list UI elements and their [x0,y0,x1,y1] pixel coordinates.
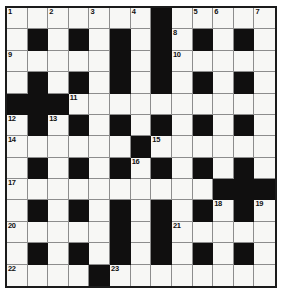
grid-cell-light[interactable] [69,51,90,72]
grid-cell-light[interactable] [7,200,28,221]
grid-cell-light[interactable] [28,51,49,72]
grid-cell-light[interactable] [193,179,214,200]
grid-cell-light[interactable] [89,179,110,200]
grid-cell-light[interactable]: 18 [213,200,234,221]
grid-cell-light[interactable]: 9 [7,51,28,72]
grid-cell-light[interactable]: 5 [193,8,214,29]
grid-cell-light[interactable] [234,51,255,72]
grid-cell-light[interactable]: 19 [254,200,275,221]
grid-cell-light[interactable]: 12 [7,115,28,136]
grid-cell-light[interactable] [234,8,255,29]
grid-cell-light[interactable] [131,200,152,221]
grid-cell-light[interactable]: 23 [110,265,131,286]
grid-cell-light[interactable]: 22 [7,265,28,286]
grid-cell-light[interactable] [193,94,214,115]
grid-cell-light[interactable] [254,115,275,136]
grid-cell-light[interactable] [69,179,90,200]
grid-cell-light[interactable] [89,51,110,72]
grid-cell-light[interactable] [89,29,110,50]
grid-cell-light[interactable]: 21 [172,222,193,243]
grid-cell-light[interactable] [89,158,110,179]
grid-cell-light[interactable] [213,136,234,157]
grid-cell-light[interactable] [48,158,69,179]
grid-cell-light[interactable] [48,72,69,93]
grid-cell-light[interactable] [213,29,234,50]
grid-cell-light[interactable] [28,136,49,157]
grid-cell-light[interactable] [28,265,49,286]
grid-cell-light[interactable]: 16 [131,158,152,179]
grid-cell-light[interactable] [172,179,193,200]
grid-cell-light[interactable] [69,222,90,243]
grid-cell-light[interactable] [172,243,193,264]
grid-cell-light[interactable] [254,158,275,179]
grid-cell-light[interactable] [234,265,255,286]
grid-cell-light[interactable] [7,72,28,93]
grid-cell-light[interactable] [254,136,275,157]
grid-cell-light[interactable] [131,265,152,286]
grid-cell-light[interactable]: 17 [7,179,28,200]
grid-cell-light[interactable] [48,136,69,157]
grid-cell-light[interactable] [110,136,131,157]
grid-cell-light[interactable]: 3 [89,8,110,29]
grid-cell-light[interactable] [151,94,172,115]
grid-cell-light[interactable] [172,136,193,157]
grid-cell-light[interactable] [7,29,28,50]
grid-cell-light[interactable] [89,243,110,264]
grid-cell-light[interactable] [254,222,275,243]
grid-cell-light[interactable] [48,179,69,200]
grid-cell-light[interactable]: 4 [131,8,152,29]
grid-cell-light[interactable] [234,136,255,157]
crossword-grid[interactable]: 1234567891011121314151617181920212223 [5,6,277,288]
grid-cell-light[interactable] [48,243,69,264]
grid-cell-light[interactable] [213,51,234,72]
grid-cell-light[interactable]: 11 [69,94,90,115]
grid-cell-light[interactable] [213,115,234,136]
grid-cell-light[interactable] [172,115,193,136]
grid-cell-light[interactable] [89,72,110,93]
grid-cell-light[interactable] [213,94,234,115]
grid-cell-light[interactable] [213,222,234,243]
grid-cell-light[interactable] [89,94,110,115]
grid-cell-light[interactable] [69,8,90,29]
grid-cell-light[interactable]: 20 [7,222,28,243]
grid-cell-light[interactable] [69,136,90,157]
grid-cell-light[interactable]: 2 [48,8,69,29]
grid-cell-light[interactable] [193,51,214,72]
grid-cell-light[interactable] [48,200,69,221]
grid-cell-light[interactable] [48,222,69,243]
grid-cell-light[interactable] [172,72,193,93]
grid-cell-light[interactable] [28,179,49,200]
grid-cell-light[interactable] [131,94,152,115]
grid-cell-light[interactable]: 13 [48,115,69,136]
grid-cell-light[interactable] [193,222,214,243]
grid-cell-light[interactable] [89,136,110,157]
grid-cell-light[interactable] [48,29,69,50]
grid-cell-light[interactable] [151,179,172,200]
grid-cell-light[interactable] [193,136,214,157]
grid-cell-light[interactable] [254,72,275,93]
grid-cell-light[interactable] [193,265,214,286]
grid-cell-light[interactable] [48,51,69,72]
grid-cell-light[interactable]: 10 [172,51,193,72]
grid-cell-light[interactable] [254,51,275,72]
grid-cell-light[interactable] [172,200,193,221]
grid-cell-light[interactable] [7,158,28,179]
grid-cell-light[interactable] [89,115,110,136]
grid-cell-light[interactable]: 7 [254,8,275,29]
grid-cell-light[interactable] [213,158,234,179]
grid-cell-light[interactable] [213,72,234,93]
grid-cell-light[interactable] [234,222,255,243]
grid-cell-light[interactable] [172,8,193,29]
grid-cell-light[interactable] [131,222,152,243]
grid-cell-light[interactable] [131,51,152,72]
grid-cell-light[interactable]: 15 [151,136,172,157]
grid-cell-light[interactable] [234,94,255,115]
grid-cell-light[interactable] [254,94,275,115]
grid-cell-light[interactable] [28,8,49,29]
grid-cell-light[interactable] [254,243,275,264]
grid-cell-light[interactable] [131,179,152,200]
grid-cell-light[interactable]: 6 [213,8,234,29]
grid-cell-light[interactable] [7,243,28,264]
grid-cell-light[interactable] [172,158,193,179]
grid-cell-light[interactable] [131,243,152,264]
